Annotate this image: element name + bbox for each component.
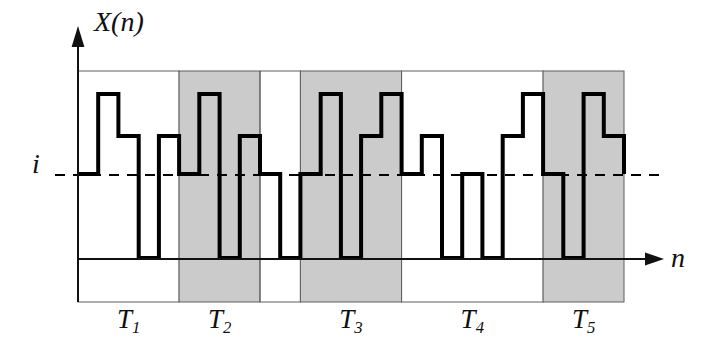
t2-base: T [208,304,223,334]
y-axis-arrow-icon [72,26,85,47]
t3-base: T [339,304,354,334]
t4-subscript: 4 [476,318,484,337]
t1-base: T [117,304,132,334]
t1-subscript: 1 [132,318,140,337]
x-axis-arrow-icon [645,252,664,265]
t5-subscript: 5 [587,318,595,337]
region-label-t4: T4 [461,306,484,333]
region-band-t1 [78,71,179,302]
x-axis-label: n [671,244,685,272]
region-label-t3: T3 [339,306,362,333]
region-label-t5: T5 [572,306,595,333]
region-label-t2: T2 [208,306,231,333]
level-i-label: i [32,150,40,178]
t2-subscript: 2 [223,318,231,337]
region-band-t3 [300,71,401,302]
waveform-diagram [0,0,723,358]
t3-subscript: 3 [354,318,362,337]
y-axis-label: X(n) [94,8,144,36]
t4-base: T [461,304,476,334]
figure: X(n) i n T1 T2 T3 T4 T5 [0,0,723,358]
region-label-t1: T1 [117,306,140,333]
t5-base: T [572,304,587,334]
